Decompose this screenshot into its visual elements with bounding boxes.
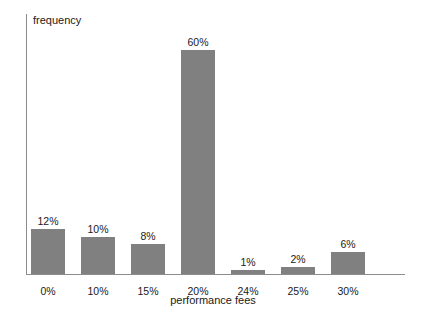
x-axis-title: performance fees: [0, 294, 426, 306]
bar-chart: frequency 12%0%10%10%8%15%60%20%1%24%2%2…: [0, 0, 426, 323]
bar: [281, 267, 315, 274]
bar-value-label: 6%: [323, 238, 373, 250]
bar-value-label: 12%: [23, 215, 73, 227]
bar-value-label: 8%: [123, 230, 173, 242]
bar-value-label: 2%: [273, 253, 323, 265]
bar: [31, 229, 65, 274]
bar: [331, 252, 365, 274]
bar-value-label: 60%: [173, 36, 223, 48]
bar: [181, 50, 215, 274]
plot-area: 12%0%10%10%8%15%60%20%1%24%2%25%6%30%: [0, 0, 426, 323]
bar: [81, 237, 115, 274]
bar-value-label: 10%: [73, 223, 123, 235]
bar: [131, 244, 165, 274]
bar-value-label: 1%: [223, 256, 273, 268]
bar: [231, 270, 265, 274]
